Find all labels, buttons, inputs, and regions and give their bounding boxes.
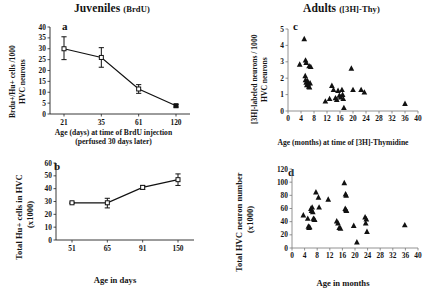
- y-tick-label: 0: [48, 236, 52, 245]
- panel-d-ylabel-line1: Total HVC neuron number: [234, 172, 244, 272]
- data-point-group: [69, 201, 74, 205]
- x-tick-label: 24: [362, 114, 370, 123]
- scatter-marker-triangle: [351, 223, 357, 228]
- scatter-marker-triangle: [305, 215, 311, 220]
- marker-square: [70, 201, 74, 205]
- x-tick-label: 12: [326, 251, 334, 260]
- panel-a-xlabel-sub: (perfused 30 days later): [26, 137, 201, 146]
- x-tick-label: 150: [172, 244, 183, 253]
- scatter-marker-triangle: [402, 222, 408, 227]
- marker-square: [62, 47, 66, 51]
- data-point-group: [173, 104, 178, 108]
- x-tick-label: 16: [339, 251, 347, 260]
- scatter-marker-triangle: [316, 204, 322, 209]
- panel-d-xlabel: Age in months: [256, 278, 430, 288]
- group-title-adults: Adults ([3H]-Thy): [303, 2, 380, 14]
- series-line: [64, 49, 176, 106]
- x-tick-label: 51: [68, 244, 76, 253]
- marker-square: [176, 178, 180, 182]
- scatter-marker-triangle: [349, 65, 355, 70]
- panel-a-ylabel-line1: Brdu+/Hu+ cells /1000: [8, 45, 17, 118]
- scatter-marker-triangle: [341, 180, 347, 185]
- y-tick-label: 60: [281, 204, 289, 213]
- scatter-marker-triangle: [300, 212, 306, 217]
- y-tick-label: 5: [280, 25, 284, 34]
- scatter-marker-triangle: [335, 88, 341, 93]
- scatter-marker-triangle: [302, 73, 308, 78]
- scatter-marker-triangle: [341, 105, 347, 110]
- x-tick-label: 20: [351, 251, 359, 260]
- x-tick-label: 120: [170, 118, 181, 127]
- x-tick-label: 36: [401, 114, 409, 123]
- x-tick-label: 12: [323, 114, 331, 123]
- x-tick-label: 32: [388, 114, 396, 123]
- x-tick-label: 4: [299, 114, 303, 123]
- series-line: [72, 180, 178, 203]
- data-point-group: [136, 85, 141, 94]
- y-tick-label: 120: [277, 165, 288, 174]
- panel-d-ylabel-line2: (x1000): [245, 206, 255, 233]
- y-tick-label: 40: [281, 217, 289, 226]
- panel-b-xlabel: Age in days: [30, 275, 200, 285]
- y-tick-label: 0: [284, 244, 288, 253]
- data-point-group: [99, 48, 104, 68]
- x-tick-label: 65: [104, 244, 112, 253]
- x-tick-label: 8: [315, 251, 319, 260]
- scatter-marker-triangle: [329, 83, 335, 88]
- group-title-juveniles-sub: (BrdU): [123, 4, 150, 14]
- scatter-marker-triangle: [297, 61, 303, 66]
- scatter-marker-triangle: [309, 204, 315, 209]
- y-tick-label: 0: [280, 107, 284, 116]
- panel-c-xlabel: Age (months) at time of [3H]-Thymidine: [256, 138, 430, 147]
- scatter-marker-triangle: [364, 229, 370, 234]
- group-title-adults-main: Adults: [303, 2, 336, 14]
- scatter-marker-triangle: [339, 87, 345, 92]
- x-tick-label: 32: [389, 251, 397, 260]
- y-tick-label: 30: [45, 197, 53, 206]
- scatter-marker-triangle: [313, 189, 319, 194]
- x-tick-label: 40: [414, 114, 422, 123]
- x-tick-label: 28: [377, 251, 385, 260]
- scatter-marker-triangle: [316, 194, 322, 199]
- panel-b-plot: 0102030405060516591150: [30, 158, 200, 258]
- x-tick-label: 28: [375, 114, 383, 123]
- x-tick-label: 36: [402, 251, 410, 260]
- scatter-marker-triangle: [358, 87, 364, 92]
- y-tick-label: 40: [45, 184, 53, 193]
- scatter-marker-triangle: [350, 87, 356, 92]
- data-point-group: [175, 174, 180, 186]
- y-tick-label: 25: [39, 55, 47, 64]
- scatter-marker-triangle: [325, 196, 331, 201]
- y-tick-label: 20: [281, 230, 289, 239]
- group-title-adults-sub: ([3H]-Thy): [339, 4, 380, 14]
- x-tick-label: 0: [286, 114, 290, 123]
- x-tick-label: 61: [135, 118, 143, 127]
- group-title-juveniles: Juveniles (BrdU): [74, 2, 150, 14]
- scatter-marker-triangle: [327, 96, 333, 101]
- y-tick-label: 80: [281, 191, 289, 200]
- x-tick-label: 16: [336, 114, 344, 123]
- x-tick-label: 0: [290, 251, 294, 260]
- y-tick-label: 5: [42, 99, 46, 108]
- y-tick-label: 40: [39, 23, 47, 32]
- x-tick-label: 40: [414, 251, 422, 260]
- y-tick-label: 50: [45, 171, 53, 180]
- y-tick-label: 1: [280, 90, 284, 99]
- y-tick-label: 0: [42, 110, 46, 119]
- marker-square: [141, 185, 145, 189]
- x-tick-label: 20: [349, 114, 357, 123]
- y-tick-label: 10: [39, 88, 47, 97]
- y-tick-label: 10: [45, 223, 53, 232]
- x-tick-label: 24: [364, 251, 372, 260]
- figure-root: Juveniles (BrdU) Adults ([3H]-Thy) a Brd…: [0, 0, 430, 295]
- data-point-group: [140, 185, 145, 189]
- panel-c-plot: 0123450481216202428323640: [266, 24, 426, 129]
- panel-d-plot: 0204060801001200481216202428323640: [266, 164, 426, 266]
- marker-square: [137, 87, 141, 91]
- panel-a-xlabel: Age (days) at time of BrdU injection: [26, 128, 201, 137]
- y-tick-label: 20: [45, 210, 53, 219]
- panel-a-plot: 0510152025303540213561120: [26, 22, 196, 132]
- scatter-marker-triangle: [301, 36, 307, 41]
- x-tick-label: 91: [139, 244, 147, 253]
- scatter-marker-triangle: [402, 101, 408, 106]
